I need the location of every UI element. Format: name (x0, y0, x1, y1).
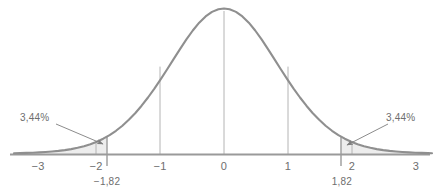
x-tick-label-3: 3 (404, 160, 428, 172)
right-annotation-arrow (347, 124, 388, 145)
tail-percent-label-left: 3,44% (20, 112, 49, 123)
x-tick-label-0: 0 (212, 160, 236, 172)
critical-value-label-left: −1,82 (85, 176, 129, 187)
tail-percent-label-right: 3,44% (386, 112, 415, 123)
normal-distribution-chart: −3 −2 −1 0 1 2 3 −1,82 1,82 3,44% 3,44% (0, 0, 437, 194)
x-tick-label-neg3: −3 (26, 160, 50, 172)
shaded-region-right-tail (342, 137, 429, 154)
left-annotation-arrow (56, 124, 103, 144)
x-tick-label-neg2: −2 (84, 160, 108, 172)
normal-curve (14, 9, 432, 154)
x-tick-label-1: 1 (276, 160, 300, 172)
x-tick-label-2: 2 (340, 160, 364, 172)
critical-value-label-right: 1,82 (322, 176, 362, 187)
x-tick-label-neg1: −1 (148, 160, 172, 172)
